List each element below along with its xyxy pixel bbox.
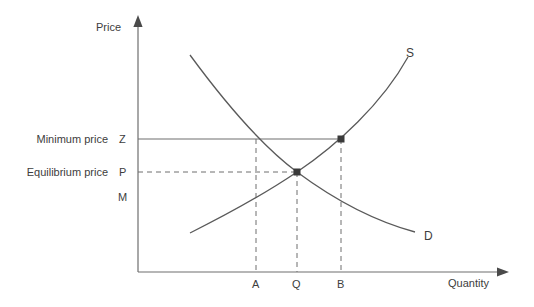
x-axis-title: Quantity <box>448 278 489 289</box>
chart-background <box>0 0 534 307</box>
quantity-tick-q: Q <box>292 279 301 290</box>
y-axis-title: Price <box>96 22 121 33</box>
supply-curve-label: S <box>406 47 414 59</box>
quantity-tick-a: A <box>252 279 259 290</box>
price-tick-p: P <box>119 167 126 178</box>
demand-curve-label: D <box>424 230 433 242</box>
minimum-price-row-label: Minimum price <box>8 134 108 145</box>
minimum-price-supply-point <box>338 136 345 143</box>
equilibrium-price-row-label: Equilibrium price <box>4 167 108 178</box>
equilibrium-point <box>294 169 301 176</box>
quantity-tick-b: B <box>337 279 344 290</box>
price-tick-z: Z <box>119 134 126 145</box>
supply-demand-chart <box>0 0 534 307</box>
price-tick-m: M <box>118 192 127 203</box>
